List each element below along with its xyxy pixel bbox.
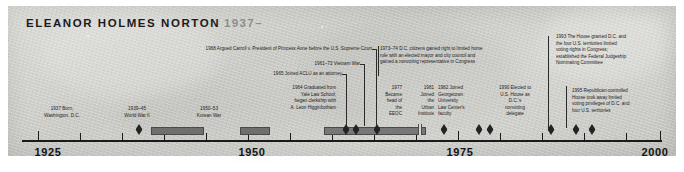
timeline-infographic: Eleanor Holmes Norton1937– 1968 Argued C… — [0, 0, 684, 172]
axis-tick-1995 — [626, 133, 627, 140]
axis-tick-1990 — [584, 133, 585, 140]
divider-rule-1995 — [566, 86, 567, 128]
annotation-yale-law: 1964 Graduated from Yale Law School; beg… — [256, 85, 336, 111]
timeline-axis — [22, 140, 662, 142]
annotation-urban-institute: 1981 Joined the Urban Institute — [404, 85, 434, 118]
annotation-eeoc: 1977 Became head of the EEOC — [372, 85, 402, 118]
axis-label-1925: 1925 — [35, 146, 62, 158]
axis-tick-1980 — [500, 133, 501, 140]
event-span-vietnam-end-cap — [418, 124, 422, 135]
annotation-home-rule: 1973–74 D.C. citizens gained right to li… — [380, 46, 546, 66]
annotation-korean-war: 1950–53 Korean War — [178, 106, 240, 119]
leader-line-aclu-elbow — [342, 74, 347, 75]
divider-rule-home-rule — [378, 46, 379, 76]
axis-tick-1955 — [290, 133, 291, 140]
axis-tick-1935 — [122, 133, 123, 140]
annotation-aclu: 1965 Joined ACLU as an attorney — [180, 71, 342, 78]
annotation-world-war-two: 1939–45 World War II — [106, 106, 168, 119]
leader-line-vietnam — [364, 64, 365, 126]
axis-label-1975: 1975 — [447, 146, 474, 158]
axis-tick-1985 — [542, 133, 543, 140]
annotation-house-1993: 1993 The House granted D.C. and the four… — [556, 34, 680, 67]
annotation-house-delegate: 1990 Elected to U.S. House as D.C.'s non… — [486, 85, 544, 118]
event-span-world-war-two — [151, 127, 204, 135]
leader-line-aclu — [346, 74, 347, 125]
axis-tick-1925 — [38, 131, 39, 140]
divider-rule-1993 — [548, 36, 549, 130]
axis-label-2000: 2000 — [642, 146, 669, 158]
page-title: Eleanor Holmes Norton1937– — [26, 17, 263, 29]
annotation-georgetown: 1982 Joined Georgetown University Law Ce… — [438, 85, 484, 118]
axis-tick-2000 — [660, 131, 661, 140]
annotation-carroll-case: 1968 Argued Carroll v. President of Prin… — [118, 46, 372, 53]
leader-line-vietnam-elbow — [360, 64, 365, 65]
annotation-born: 1937 Born, Washington, D.C. — [24, 106, 100, 119]
annotation-house-1995: 1995 Republican-controlled House took aw… — [572, 88, 684, 114]
axis-tick-1945 — [206, 133, 207, 140]
axis-tick-1975 — [458, 131, 459, 140]
subject-name: Eleanor Holmes Norton — [26, 17, 220, 29]
annotation-vietnam-war: 1961–73 Vietnam War — [200, 61, 360, 68]
subject-life-dates: 1937– — [224, 17, 263, 29]
leader-line-carroll-elbow — [372, 49, 377, 50]
axis-label-1950: 1950 — [239, 146, 266, 158]
axis-tick-1930 — [80, 133, 81, 140]
event-span-korean-war — [240, 127, 270, 135]
